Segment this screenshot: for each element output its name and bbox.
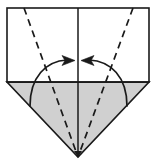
origami-diagram: Origami fold step diagram Square sheet w… (0, 0, 156, 165)
origami-figure-svg (0, 0, 156, 165)
